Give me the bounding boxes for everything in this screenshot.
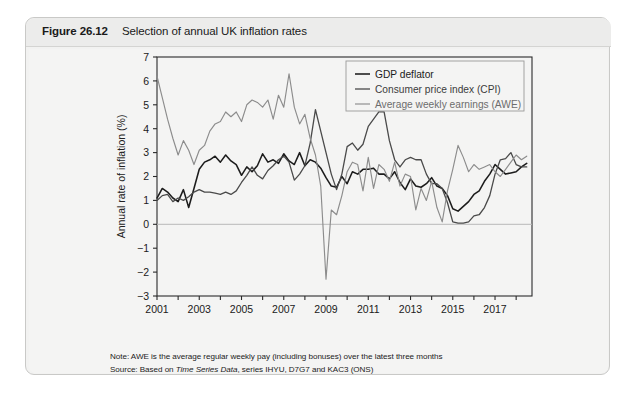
chart-legend: GDP deflatorConsumer price index (CPI)Av… xyxy=(346,61,524,111)
x-tick-label: 2007 xyxy=(272,303,296,315)
note-awe-text: Note: AWE is the average regular weekly … xyxy=(110,352,443,361)
figure-header: Figure 26.12 Selection of annual UK infl… xyxy=(26,18,611,47)
legend-label-gdp-deflator: GDP deflator xyxy=(375,69,434,80)
y-tick-label: 5 xyxy=(143,99,149,111)
y-tick-label: 6 xyxy=(143,75,149,87)
figure-caption: Selection of annual UK inflation rates xyxy=(122,25,307,37)
source-prefix: Source: Based on xyxy=(110,365,176,374)
figure-frame: Figure 26.12 Selection of annual UK infl… xyxy=(25,17,610,375)
y-axis: −3−2−101234567 xyxy=(137,51,157,302)
y-tick-label: −1 xyxy=(137,242,149,254)
inflation-line-chart: −3−2−101234567 2001200320052007200920112… xyxy=(29,49,608,339)
y-tick-label: −3 xyxy=(137,290,149,302)
legend-label-cpi: Consumer price index (CPI) xyxy=(375,84,501,95)
x-axis: 200120032005200720092011201320152017 xyxy=(145,296,516,315)
x-tick-label: 2011 xyxy=(357,303,380,315)
note-source: Source: Based on Time Series Data, serie… xyxy=(110,364,580,377)
y-tick-label: 7 xyxy=(143,51,149,63)
y-tick-label: −2 xyxy=(137,266,149,278)
x-tick-label: 2003 xyxy=(188,303,212,315)
source-suffix: , series IHYU, D7G7 and KAC3 (ONS) xyxy=(237,365,373,374)
source-italic: Time Series Data xyxy=(176,365,238,374)
y-tick-label: 2 xyxy=(143,170,149,182)
figure-notes: Note: AWE is the average regular weekly … xyxy=(110,351,580,376)
x-tick-label: 2017 xyxy=(483,303,507,315)
x-tick-label: 2013 xyxy=(399,303,423,315)
chart-area: −3−2−101234567 2001200320052007200920112… xyxy=(29,49,608,339)
series-line-gdp-deflator xyxy=(157,153,527,212)
note-awe: Note: AWE is the average regular weekly … xyxy=(110,351,580,364)
x-tick-label: 2001 xyxy=(145,303,169,315)
y-tick-label: 3 xyxy=(143,146,149,158)
x-tick-label: 2009 xyxy=(314,303,338,315)
figure-number: Figure 26.12 xyxy=(42,25,108,37)
x-tick-label: 2015 xyxy=(441,303,465,315)
y-tick-label: 4 xyxy=(143,123,149,135)
figure-body: −3−2−101234567 2001200320052007200920112… xyxy=(29,49,608,373)
y-axis-title: Annual rate of inflation (%) xyxy=(115,115,127,239)
legend-label-awe: Average weekly earnings (AWE) xyxy=(375,99,521,110)
y-axis-title-text: Annual rate of inflation (%) xyxy=(115,115,127,239)
y-tick-label: 1 xyxy=(143,194,149,206)
y-tick-label: 0 xyxy=(143,218,149,230)
x-tick-label: 2005 xyxy=(230,303,254,315)
